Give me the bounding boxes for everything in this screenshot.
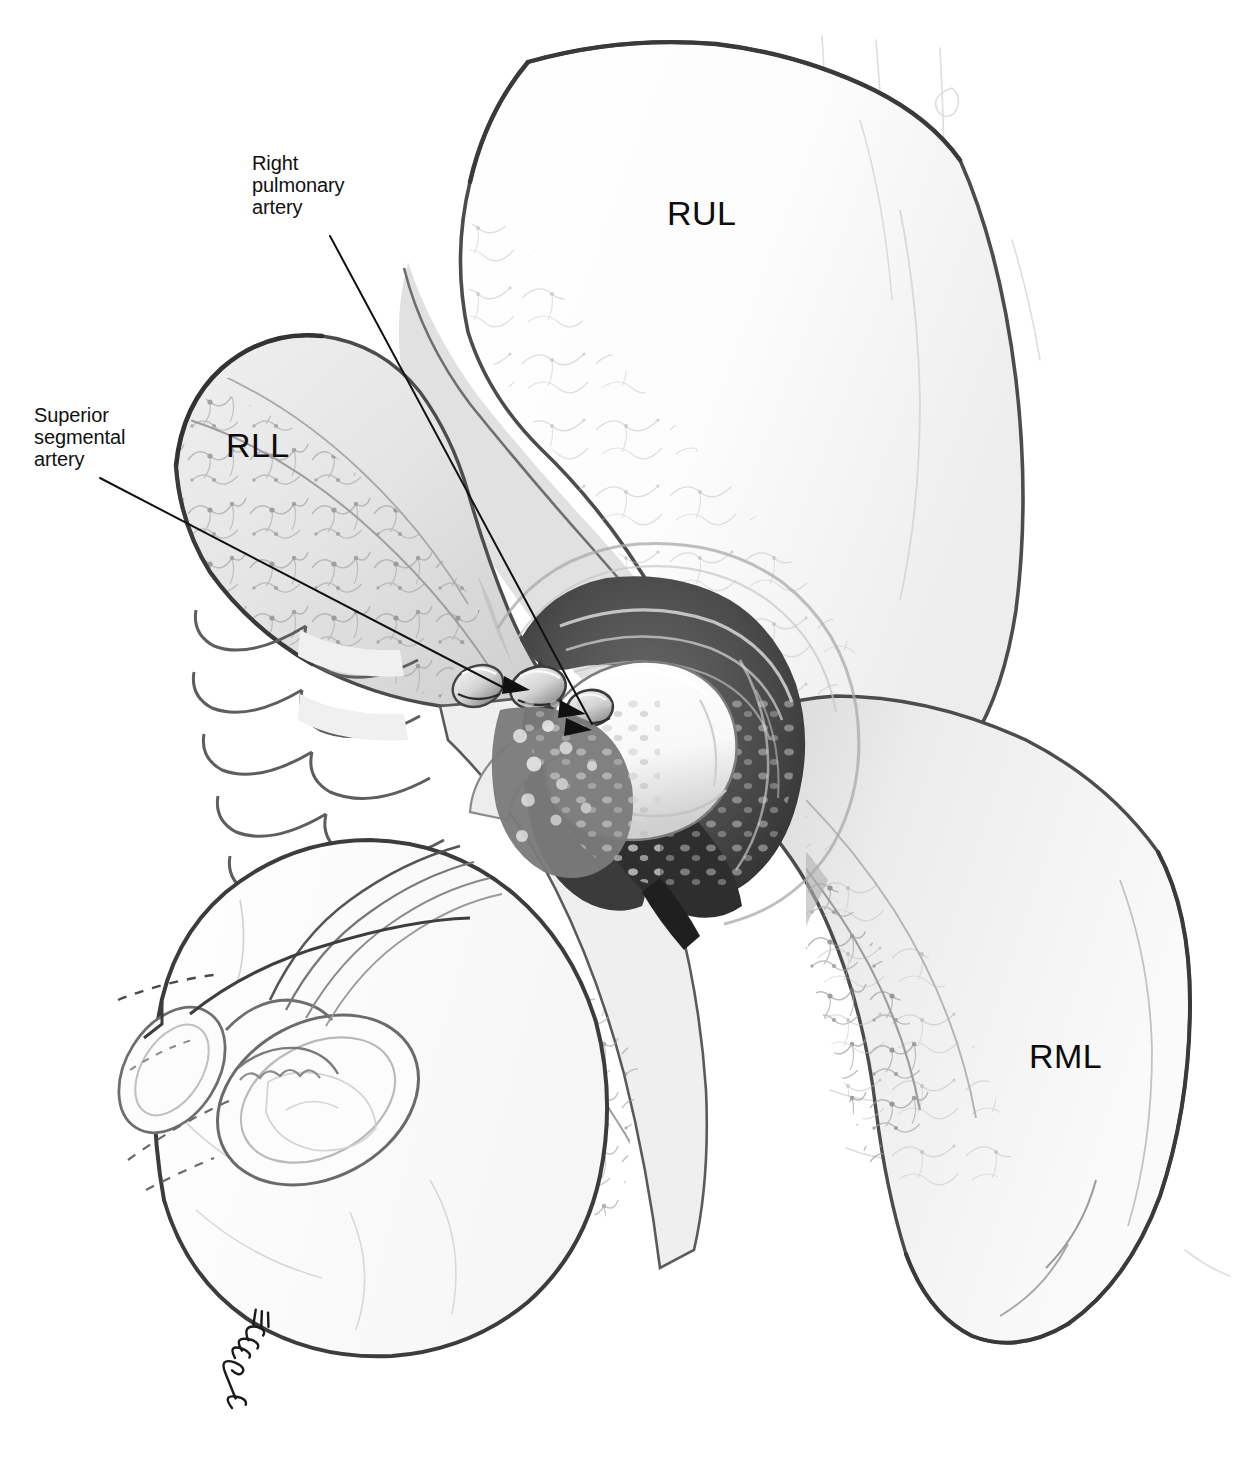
label-right-pulmonary-artery: Right pulmonary artery bbox=[252, 152, 344, 218]
illustration-canvas bbox=[0, 0, 1242, 1466]
label-right-lower-lobe: RLL bbox=[226, 427, 290, 463]
label-right-upper-lobe: RUL bbox=[667, 195, 736, 231]
label-right-middle-lobe: RML bbox=[1029, 1038, 1102, 1074]
surgical-illustration-figure: Right pulmonary artery Superior segmenta… bbox=[0, 0, 1242, 1466]
label-superior-segmental-artery: Superior segmental artery bbox=[34, 404, 125, 470]
